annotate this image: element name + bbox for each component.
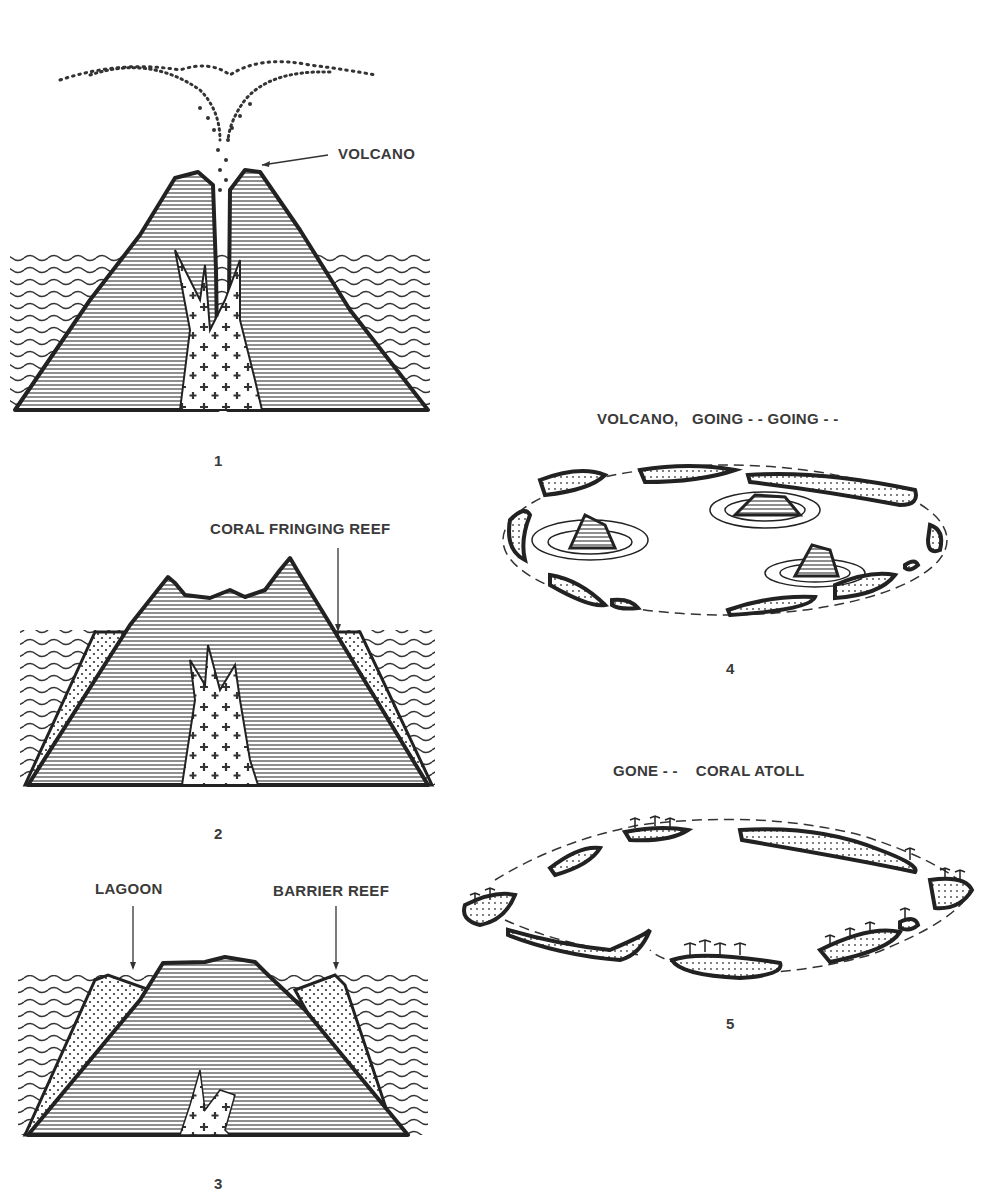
- label-volcano-going: VOLCANO, GOING - - GOING - -: [597, 410, 839, 427]
- label-volcano: VOLCANO: [338, 145, 415, 162]
- panel-number-2: 2: [214, 825, 222, 842]
- panel-number-4: 4: [726, 660, 734, 677]
- label-barrier-reef: BARRIER REEF: [273, 882, 389, 899]
- panel-5-coral-atoll-drawing: [464, 816, 972, 978]
- label-gone-coral-atoll: GONE - - CORAL ATOLL: [613, 762, 804, 779]
- panel-number-5: 5: [726, 1015, 734, 1032]
- panel-number-3: 3: [214, 1175, 222, 1192]
- volcano-island-2: [710, 492, 820, 528]
- panel-1-volcano-drawing: [10, 62, 430, 411]
- panel-number-1: 1: [214, 452, 222, 469]
- panel-3-barrier-reef-drawing: [18, 906, 428, 1135]
- volcano-arrow: [262, 155, 328, 165]
- panel-4-sinking-volcano-drawing: [503, 465, 947, 615]
- diagram-canvas: [0, 0, 991, 1199]
- panel-2-fringing-reef-drawing: [20, 548, 435, 785]
- volcano-island-1: [532, 515, 648, 560]
- label-lagoon: LAGOON: [95, 880, 163, 897]
- label-coral-fringing-reef: CORAL FRINGING REEF: [210, 520, 390, 537]
